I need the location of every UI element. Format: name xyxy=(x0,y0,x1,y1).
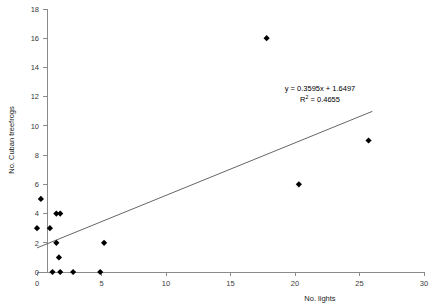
y-tick-label: 16 xyxy=(31,34,39,43)
plot-area: 024681012141618 051015202530 No. lights … xyxy=(0,0,441,308)
scatter-chart: 024681012141618 051015202530 No. lights … xyxy=(0,0,441,308)
trendline xyxy=(37,111,372,248)
data-point xyxy=(38,196,44,202)
x-tick-label: 20 xyxy=(291,279,299,288)
y-tick-label: 10 xyxy=(31,122,39,131)
x-axis-title: No. lights xyxy=(304,294,336,303)
y-tick-label: 6 xyxy=(35,180,39,189)
y-tick-label: 18 xyxy=(31,5,39,14)
data-point xyxy=(365,137,371,143)
y-axis-ticks: 024681012141618 xyxy=(31,5,47,277)
y-tick-label: 4 xyxy=(35,209,39,218)
data-point xyxy=(57,269,63,275)
y-tick-label: 12 xyxy=(31,92,39,101)
data-point xyxy=(101,240,107,246)
x-tick-label: 10 xyxy=(162,279,170,288)
data-point xyxy=(97,269,103,275)
data-point xyxy=(57,210,63,216)
data-point xyxy=(56,254,62,260)
data-point xyxy=(70,269,76,275)
x-tick-label: 5 xyxy=(99,279,103,288)
y-axis-title: No. Cuban treefrogs xyxy=(7,106,16,174)
y-tick-label: 8 xyxy=(35,151,39,160)
x-axis-ticks: 051015202530 xyxy=(35,272,428,288)
r-squared-label: R2 = 0.4655 xyxy=(300,94,340,104)
y-tick-label: 14 xyxy=(31,63,39,72)
data-point xyxy=(49,269,55,275)
x-tick-label: 0 xyxy=(35,279,39,288)
data-point xyxy=(34,225,40,231)
x-tick-label: 15 xyxy=(226,279,234,288)
regression-equation-label: y = 0.3595x + 1.6497 xyxy=(285,84,355,93)
data-point-group xyxy=(34,35,372,275)
y-tick-label: 2 xyxy=(35,239,39,248)
x-tick-label: 25 xyxy=(355,279,363,288)
data-point xyxy=(296,181,302,187)
x-tick-label: 30 xyxy=(420,279,428,288)
data-point xyxy=(264,35,270,41)
data-point xyxy=(47,225,53,231)
r-squared-value: = 0.4655 xyxy=(308,95,340,104)
